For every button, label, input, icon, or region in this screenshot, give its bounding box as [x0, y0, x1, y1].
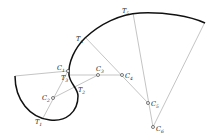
- point-c4: [121, 74, 124, 77]
- line-end-c6: [153, 22, 205, 127]
- label-t1: T1: [35, 118, 42, 127]
- label-c6: C6: [156, 125, 164, 134]
- point-c3: [97, 74, 100, 77]
- point-c1: [67, 70, 70, 73]
- label-t4: T4: [76, 35, 83, 44]
- label-c5: C5: [151, 100, 159, 109]
- label-t2: T2: [78, 86, 85, 95]
- label-c2: C2: [42, 94, 50, 103]
- construction-lines: [15, 13, 205, 127]
- line-t4-c5: [85, 37, 148, 103]
- line-t5-c6: [133, 13, 153, 127]
- point-c5: [147, 102, 150, 105]
- label-t5: T5: [122, 7, 129, 16]
- label-c3: C3: [96, 65, 104, 74]
- label-c1: C1: [57, 64, 65, 73]
- diagram-canvas: C1 C2 C3 C4 C5 C6 T1 T2 T3 T4 T5: [0, 0, 217, 138]
- compound-curve: [15, 13, 205, 120]
- point-c2: [52, 97, 55, 100]
- label-t3: T3: [61, 74, 68, 83]
- point-c6: [152, 126, 155, 129]
- label-c4: C4: [125, 72, 133, 81]
